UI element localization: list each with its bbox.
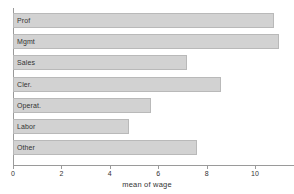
bar-row: Cler.: [13, 77, 288, 92]
x-axis-tick: [207, 165, 208, 169]
x-axis-tick: [255, 165, 256, 169]
x-axis-tick: [110, 165, 111, 169]
x-axis-tick-label: 10: [251, 170, 259, 177]
bar-row: Other: [13, 140, 288, 155]
bar-row: Labor: [13, 119, 288, 134]
bar-category-label: Labor: [17, 119, 35, 134]
x-axis-tick-label: 2: [59, 170, 63, 177]
bar-category-label: Operat.: [17, 98, 41, 113]
plot-area: ProfMgmtSalesCler.Operat.LaborOther: [13, 8, 288, 165]
bar-chart: ProfMgmtSalesCler.Operat.LaborOther 0246…: [0, 0, 294, 194]
bar-category-label: Prof: [17, 13, 30, 28]
x-axis-tick: [13, 165, 14, 169]
x-axis-title: mean of wage: [0, 180, 294, 189]
x-axis-tick: [61, 165, 62, 169]
bar-category-label: Cler.: [17, 77, 32, 92]
bar[interactable]: [13, 34, 279, 49]
x-axis-tick-label: 6: [156, 170, 160, 177]
bar-row: Sales: [13, 55, 288, 70]
bar[interactable]: [13, 55, 187, 70]
bar-row: Prof: [13, 13, 288, 28]
bar[interactable]: [13, 140, 197, 155]
x-axis-tick-label: 0: [11, 170, 15, 177]
x-axis-line: [13, 165, 294, 166]
x-axis-tick: [158, 165, 159, 169]
bar-category-label: Sales: [17, 55, 35, 70]
bar-row: Mgmt: [13, 34, 288, 49]
bar-category-label: Other: [17, 140, 35, 155]
bar-row: Operat.: [13, 98, 288, 113]
x-axis-tick-label: 4: [108, 170, 112, 177]
bar-category-label: Mgmt: [17, 34, 35, 49]
bar[interactable]: [13, 77, 221, 92]
x-axis-tick-label: 8: [205, 170, 209, 177]
bar[interactable]: [13, 13, 274, 28]
